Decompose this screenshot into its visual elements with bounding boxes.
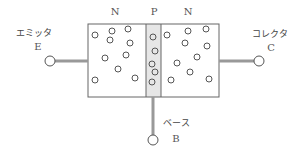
transistor-diagram: N P N エミッタ E コレクタ C ベース B — [0, 0, 300, 153]
carrier-dot — [204, 43, 210, 49]
region-label-emitter-n: N — [111, 6, 120, 17]
carrier-dot — [92, 77, 98, 83]
emitter-label: エミッタ — [16, 28, 52, 38]
carrier-dot — [127, 40, 133, 46]
carrier-dot — [164, 32, 170, 38]
carrier-dot — [132, 75, 138, 81]
carrier-dot — [107, 37, 113, 43]
base-label: ベース — [163, 118, 190, 128]
carrier-dot — [102, 55, 108, 61]
carrier-dot — [203, 26, 209, 32]
base-symbol: B — [172, 133, 179, 144]
carrier-dot — [185, 28, 191, 34]
carrier-dot — [187, 69, 193, 75]
carrier-dot — [115, 66, 121, 72]
carrier-dot — [109, 28, 115, 34]
carrier-dot — [206, 76, 212, 82]
base-terminal — [148, 135, 158, 145]
collector-label: コレクタ — [252, 29, 288, 39]
carrier-dot — [174, 60, 180, 66]
region-label-collector-n: N — [184, 6, 193, 17]
collector-terminal — [254, 56, 264, 66]
p-region — [146, 24, 161, 97]
carrier-dot — [194, 54, 200, 60]
carrier-dot — [125, 26, 131, 32]
carrier-dot — [92, 32, 98, 38]
carrier-dot — [182, 40, 188, 46]
emitter-terminal — [45, 56, 55, 66]
collector-symbol: C — [267, 42, 275, 53]
region-label-base-p: P — [151, 6, 158, 17]
emitter-symbol: E — [34, 41, 41, 52]
carrier-dot — [123, 52, 129, 58]
carrier-dot — [168, 77, 174, 83]
